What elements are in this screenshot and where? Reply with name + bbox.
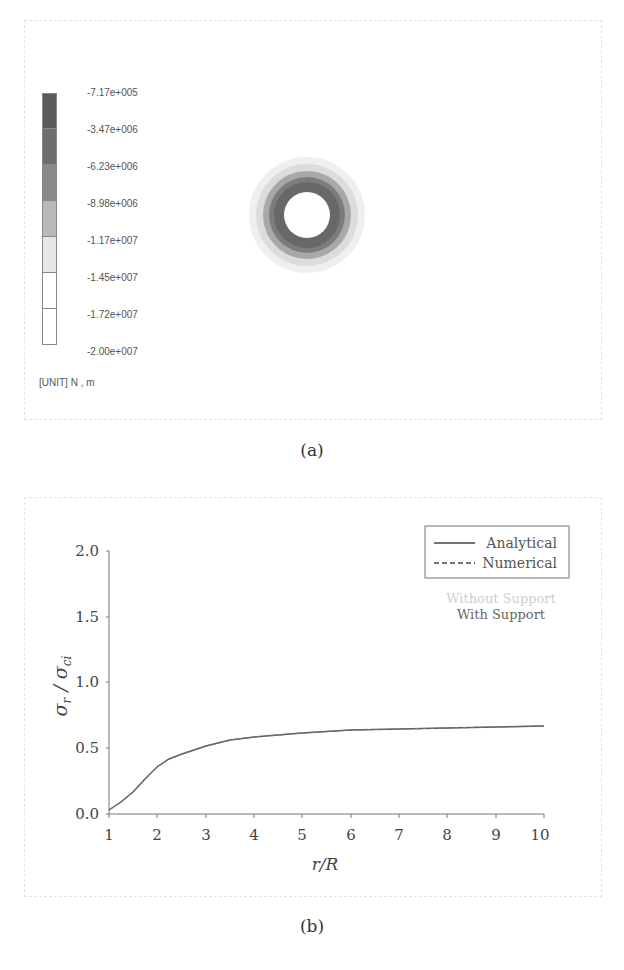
contour-rings — [249, 157, 365, 273]
x-axis-label: r/R — [312, 854, 339, 874]
svg-text:2: 2 — [152, 826, 162, 844]
line-chart-panel: 2.01.5 1.00.5 0.0 123 456 789 10 r/R σr … — [24, 497, 602, 897]
svg-text:7: 7 — [394, 826, 404, 844]
svg-text:0.0: 0.0 — [75, 805, 99, 823]
svg-text:1: 1 — [104, 826, 114, 844]
annotation-without-support: Without Support — [446, 591, 556, 606]
legend-label: -1.17e+007 — [87, 235, 138, 272]
legend-label: -7.17e+005 — [87, 87, 138, 124]
svg-text:1.0: 1.0 — [75, 673, 99, 691]
svg-text:9: 9 — [491, 826, 501, 844]
y-axis-label: σr / σci — [49, 655, 74, 716]
svg-text:1.5: 1.5 — [75, 608, 99, 626]
contour-panel: -7.17e+005 -3.47e+006 -6.23e+006 -8.98e+… — [24, 20, 602, 420]
color-legend-bar — [42, 93, 58, 345]
legend-swatch — [42, 93, 57, 129]
svg-text:0.5: 0.5 — [75, 739, 99, 757]
legend-label: -6.23e+006 — [87, 161, 138, 198]
legend-label: -1.45e+007 — [87, 272, 138, 309]
legend-swatch — [42, 237, 57, 273]
legend-swatch — [42, 273, 57, 309]
line-chart: 2.01.5 1.00.5 0.0 123 456 789 10 r/R σr … — [25, 498, 601, 896]
legend-numerical: Numerical — [482, 555, 557, 571]
svg-text:4: 4 — [249, 826, 259, 844]
svg-text:10: 10 — [530, 826, 549, 844]
svg-text:2.0: 2.0 — [75, 542, 99, 560]
annotation-with-support: With Support — [457, 607, 546, 622]
legend-swatch — [42, 201, 57, 237]
legend-swatch — [42, 309, 57, 345]
svg-text:3: 3 — [201, 826, 211, 844]
svg-text:8: 8 — [442, 826, 452, 844]
legend-label: -2.00e+007 — [87, 346, 138, 383]
legend-label: -1.72e+007 — [87, 309, 138, 346]
numerical-curve — [109, 726, 544, 810]
svg-text:6: 6 — [346, 826, 356, 844]
legend-labels: -7.17e+005 -3.47e+006 -6.23e+006 -8.98e+… — [87, 87, 138, 383]
legend-swatch — [42, 165, 57, 201]
legend-label: -3.47e+006 — [87, 124, 138, 161]
y-tick-labels: 2.01.5 1.00.5 0.0 — [75, 542, 99, 823]
legend-swatch — [42, 129, 57, 165]
analytical-curve — [109, 726, 544, 810]
legend-label: -8.98e+006 — [87, 198, 138, 235]
x-ticks — [109, 814, 544, 818]
x-tick-labels: 123 456 789 10 — [104, 826, 549, 844]
unit-label: [UNIT] N , m — [39, 377, 95, 388]
legend-analytical: Analytical — [485, 535, 557, 551]
caption-a: (a) — [0, 440, 624, 460]
svg-text:5: 5 — [297, 826, 307, 844]
caption-b: (b) — [0, 916, 624, 936]
